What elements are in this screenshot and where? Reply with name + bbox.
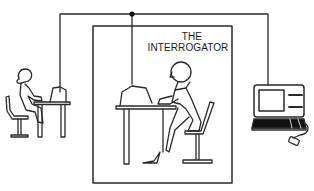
computer-respondent bbox=[252, 85, 308, 146]
computer-mouse bbox=[288, 136, 300, 146]
junction-dot bbox=[129, 11, 134, 16]
human-body bbox=[20, 83, 43, 123]
room-label-interrogator: INTERROGATOR bbox=[138, 42, 238, 53]
human-terminal bbox=[50, 87, 66, 102]
interrogator-terminal bbox=[120, 86, 152, 106]
human-head bbox=[18, 69, 32, 83]
interrogator-head bbox=[171, 62, 191, 82]
turing-test-diagram bbox=[0, 0, 314, 191]
room-label-the: THE bbox=[152, 31, 232, 42]
computer-screen bbox=[259, 90, 284, 111]
interrogator-desk bbox=[116, 106, 176, 109]
computer-keyboard bbox=[252, 119, 306, 128]
interrogator-person bbox=[116, 62, 214, 164]
